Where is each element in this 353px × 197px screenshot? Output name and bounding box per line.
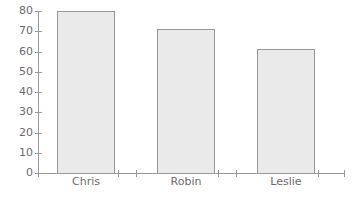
y-axis-label-20: 20 [19,126,33,139]
y-axis-label-80: 80 [19,4,33,17]
y-axis-label-70: 70 [19,24,33,37]
x-axis-label-robin: Robin [171,175,202,188]
y-axis-tick-labels: 80706050403020100 [19,4,33,179]
bar-leslie [258,50,315,174]
bar-chart-figure: 80706050403020100 ChrisRobinLeslie [0,0,353,197]
y-axis-label-60: 60 [19,45,33,58]
x-axis-label-chris: Chris [72,175,100,188]
bar-robin [158,30,215,174]
y-axis-label-50: 50 [19,65,33,78]
y-axis-label-0: 0 [26,166,33,179]
bar-chris [58,12,115,174]
y-axis-label-30: 30 [19,105,33,118]
y-axis-label-10: 10 [19,146,33,159]
y-axis-label-40: 40 [19,85,33,98]
x-axis-label-leslie: Leslie [270,175,302,188]
chart-canvas: 80706050403020100 ChrisRobinLeslie [0,0,353,197]
